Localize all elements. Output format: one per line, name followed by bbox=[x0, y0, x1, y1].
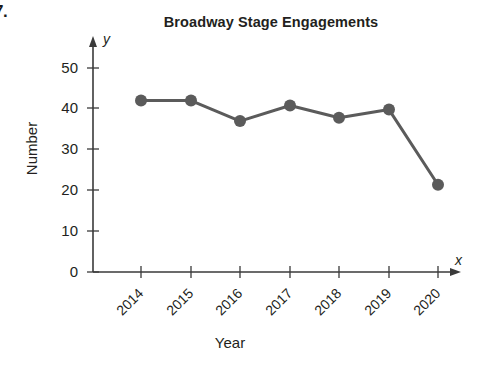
data-point-2016 bbox=[234, 115, 246, 127]
data-point-2019 bbox=[383, 104, 395, 116]
ytick-label-0: 0 bbox=[44, 263, 78, 280]
ytick-label-50: 50 bbox=[44, 59, 78, 76]
y-axis-variable: y bbox=[103, 31, 110, 47]
data-point-2017 bbox=[284, 100, 296, 112]
data-point-2015 bbox=[185, 95, 197, 107]
chart-page: 7. Broadway Stage Engagements bbox=[0, 0, 482, 367]
x-axis-variable: x bbox=[455, 252, 462, 268]
ytick-label-20: 20 bbox=[44, 181, 78, 198]
ytick-label-30: 30 bbox=[44, 140, 78, 157]
data-point-markers bbox=[135, 95, 444, 191]
ytick-label-40: 40 bbox=[44, 99, 78, 116]
y-axis-label: Number bbox=[23, 109, 40, 189]
x-axis-arrow bbox=[450, 268, 461, 276]
data-point-2018 bbox=[333, 112, 345, 124]
ytick-label-10: 10 bbox=[44, 222, 78, 239]
data-point-2020 bbox=[432, 179, 444, 191]
x-axis-label: Year bbox=[170, 334, 290, 351]
data-point-2014 bbox=[135, 95, 147, 107]
y-axis-arrow bbox=[89, 36, 97, 47]
